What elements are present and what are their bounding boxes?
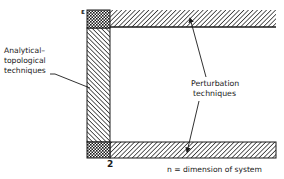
analytical-label-line-1: Analytical– xyxy=(4,46,54,56)
region-diagram xyxy=(0,0,284,179)
analytical-label-line-3: techniques xyxy=(4,66,54,76)
analytical-leader-line xyxy=(50,74,90,88)
perturbation-region-top xyxy=(110,10,276,27)
epsilon-axis-label: ε xyxy=(81,8,85,17)
n-equals-two-tick: 2 xyxy=(107,160,113,169)
perturbation-region-bottom xyxy=(110,142,276,158)
analytical-topological-label: Analytical– topological techniques xyxy=(4,46,54,76)
analytical-topological-region xyxy=(87,28,110,142)
analytical-label-line-2: topological xyxy=(4,56,54,66)
x-axis-caption: n = dimension of system xyxy=(167,165,262,174)
overlap-region-bottom xyxy=(87,142,110,158)
perturbation-label-line-2: techniques xyxy=(191,89,239,99)
overlap-region-top xyxy=(87,10,110,28)
perturbation-label: Perturbation techniques xyxy=(191,79,239,98)
perturbation-label-line-1: Perturbation xyxy=(191,79,239,89)
